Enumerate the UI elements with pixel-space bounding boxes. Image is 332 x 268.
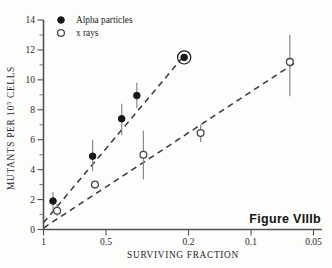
y-tick-label: 2 [30,195,35,205]
x-axis-ticks: 10.50.20.10.05 [41,230,322,248]
data-point-xray [286,59,293,66]
data-point-xray [92,181,99,188]
y-tick-label: 14 [26,15,36,25]
fit-line-group [44,58,295,228]
data-point-alpha [89,153,96,160]
figure-caption: Figure VIIIb [249,212,321,226]
legend-label: x rays [76,28,99,38]
y-tick-label: 6 [30,135,35,145]
error-bar-group [53,35,290,216]
y-tick-label: 0 [30,225,35,235]
data-point-xray [140,151,147,158]
x-tick-label: 0.1 [245,237,257,247]
y-axis-ticks: 02468101214 [26,15,44,235]
data-point-alpha [181,54,188,61]
x-tick-label: 0.05 [305,237,322,247]
legend: Alpha particlesx rays [58,15,133,38]
y-axis-title-base: MUTANTS PER 10 [6,105,16,190]
y-tick-label: 12 [26,45,36,55]
scatter-plot: 02468101214 10.50.20.10.05 MUTANTS PER 1… [0,0,332,268]
data-point-alpha [134,92,141,99]
y-tick-label: 4 [30,165,35,175]
data-point-alpha [50,198,57,205]
y-tick-label: 8 [30,105,35,115]
data-point-xray [54,207,61,214]
fit-line [44,58,183,223]
legend-marker-xray [58,30,65,37]
legend-label: Alpha particles [76,15,133,25]
data-point-alpha [118,115,125,122]
x-tick-label: 0.5 [100,237,112,247]
x-tick-label: 1 [41,237,46,247]
data-point-group [50,51,294,214]
x-tick-label: 0.2 [183,237,195,247]
y-axis-title: MUTANTS PER 105 CELLS [5,66,16,190]
y-axis-title-tail: CELLS [6,66,16,101]
figure-container: 02468101214 10.50.20.10.05 MUTANTS PER 1… [0,0,332,268]
data-point-xray [197,130,204,137]
y-tick-label: 10 [26,75,36,85]
x-axis-title: SURVIVING FRACTION [127,250,239,260]
legend-marker-alpha [58,17,65,24]
fit-line [44,63,295,228]
